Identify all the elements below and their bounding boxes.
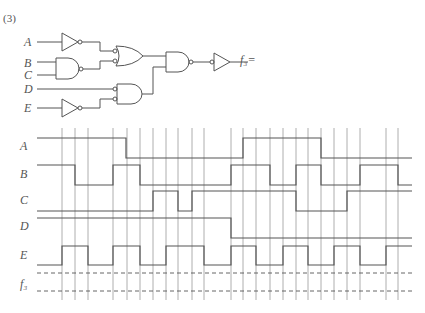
timing-waveforms [37,138,412,291]
logic-diagram: (3) A B C D E [0,0,425,313]
signal-label-f3: f₃ [20,277,28,291]
signal-label-e: E [19,248,28,262]
nand-gate-out [166,52,210,72]
waveform-a [37,138,412,158]
signal-label-d: D [19,219,29,233]
waveform-c [37,191,412,211]
not-gate-a [37,33,113,51]
input-label-a: A [23,35,32,49]
waveform-d [37,218,412,238]
problem-number: (3) [3,12,16,25]
circuit: A B C D E [23,33,256,117]
timing-labels: ABCDEf₃ [19,139,29,291]
signal-label-b: B [20,167,28,181]
waveform-e [37,246,412,265]
signal-label-c: C [20,193,29,207]
or-gate-1 [113,46,166,66]
signal-label-a: A [19,139,28,153]
timing-grid [62,128,398,300]
waveform-b [37,165,412,185]
nand-gate-bc [37,58,113,79]
input-label-e: E [23,101,32,115]
not-gate-e [37,99,113,117]
output-label: f₃= [240,53,256,67]
input-label-d: D [23,82,33,96]
input-label-c: C [24,68,33,82]
